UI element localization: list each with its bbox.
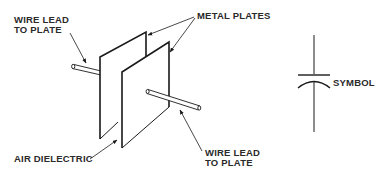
rear-wire-lead <box>72 64 101 75</box>
label-wire-lead-bottom-line2: TO PLATE <box>205 158 260 168</box>
label-wire-lead-top: WIRE LEAD TO PLATE <box>14 15 69 35</box>
capacitor-symbol <box>298 35 330 132</box>
arrow-metal-plate-back <box>148 17 194 35</box>
label-wire-lead-top-line2: TO PLATE <box>14 25 69 35</box>
arrow-metal-plate-front <box>170 18 195 52</box>
label-metal-plates: METAL PLATES <box>197 11 271 21</box>
label-symbol-text: SYMBOL <box>333 77 375 88</box>
arrow-wire-lead-top <box>70 33 86 63</box>
label-metal-plates-text: METAL PLATES <box>197 10 271 21</box>
arrow-wire-lead-bottom <box>180 110 202 151</box>
label-air-dielectric: AIR DIELECTRIC <box>14 154 93 164</box>
arrow-air-dielectric <box>90 140 117 159</box>
label-symbol: SYMBOL <box>333 78 375 88</box>
label-wire-lead-bottom: WIRE LEAD TO PLATE <box>205 148 260 168</box>
label-air-dielectric-text: AIR DIELECTRIC <box>14 153 93 164</box>
